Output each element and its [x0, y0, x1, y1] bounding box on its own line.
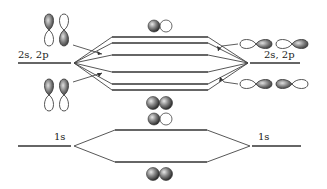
valence-mo-levels	[112, 37, 208, 90]
p-orbital-icon	[45, 14, 54, 46]
left-p-orbitals-top	[45, 14, 69, 46]
p-orbital-icon	[276, 80, 308, 89]
right-core-level: 1s	[252, 131, 301, 146]
right-core-label: 1s	[258, 131, 270, 142]
mo-symbol-antibonding-top	[148, 20, 172, 32]
core-mo-levels	[115, 130, 207, 162]
p-orbital-icon	[45, 79, 54, 111]
p-orbital-icon	[240, 80, 272, 89]
p-orbital-icon	[60, 14, 69, 46]
right-p-orbitals-top	[240, 40, 308, 49]
mo-symbol-antibonding-core	[148, 113, 172, 125]
p-orbital-icon	[240, 40, 272, 49]
right-valence-level: 2s, 2p	[250, 49, 300, 63]
mo-diagram: 2s, 2p 2s, 2p	[0, 0, 327, 189]
core-correlation-lines	[74, 130, 250, 162]
left-core-label: 1s	[54, 131, 66, 142]
left-valence-level: 2s, 2p	[18, 49, 71, 63]
left-valence-label: 2s, 2p	[18, 49, 49, 60]
right-p-orbitals-bottom	[240, 80, 308, 89]
p-orbital-icon	[60, 79, 69, 111]
mo-symbol-bonding-core	[147, 168, 173, 181]
left-valence-correlation-lines	[74, 37, 112, 90]
p-orbital-icon	[276, 40, 308, 49]
mo-symbol-bonding-valence	[147, 97, 173, 110]
left-p-orbitals-bottom	[45, 79, 69, 111]
right-valence-label: 2s, 2p	[264, 49, 295, 60]
left-core-level: 1s	[18, 131, 71, 146]
